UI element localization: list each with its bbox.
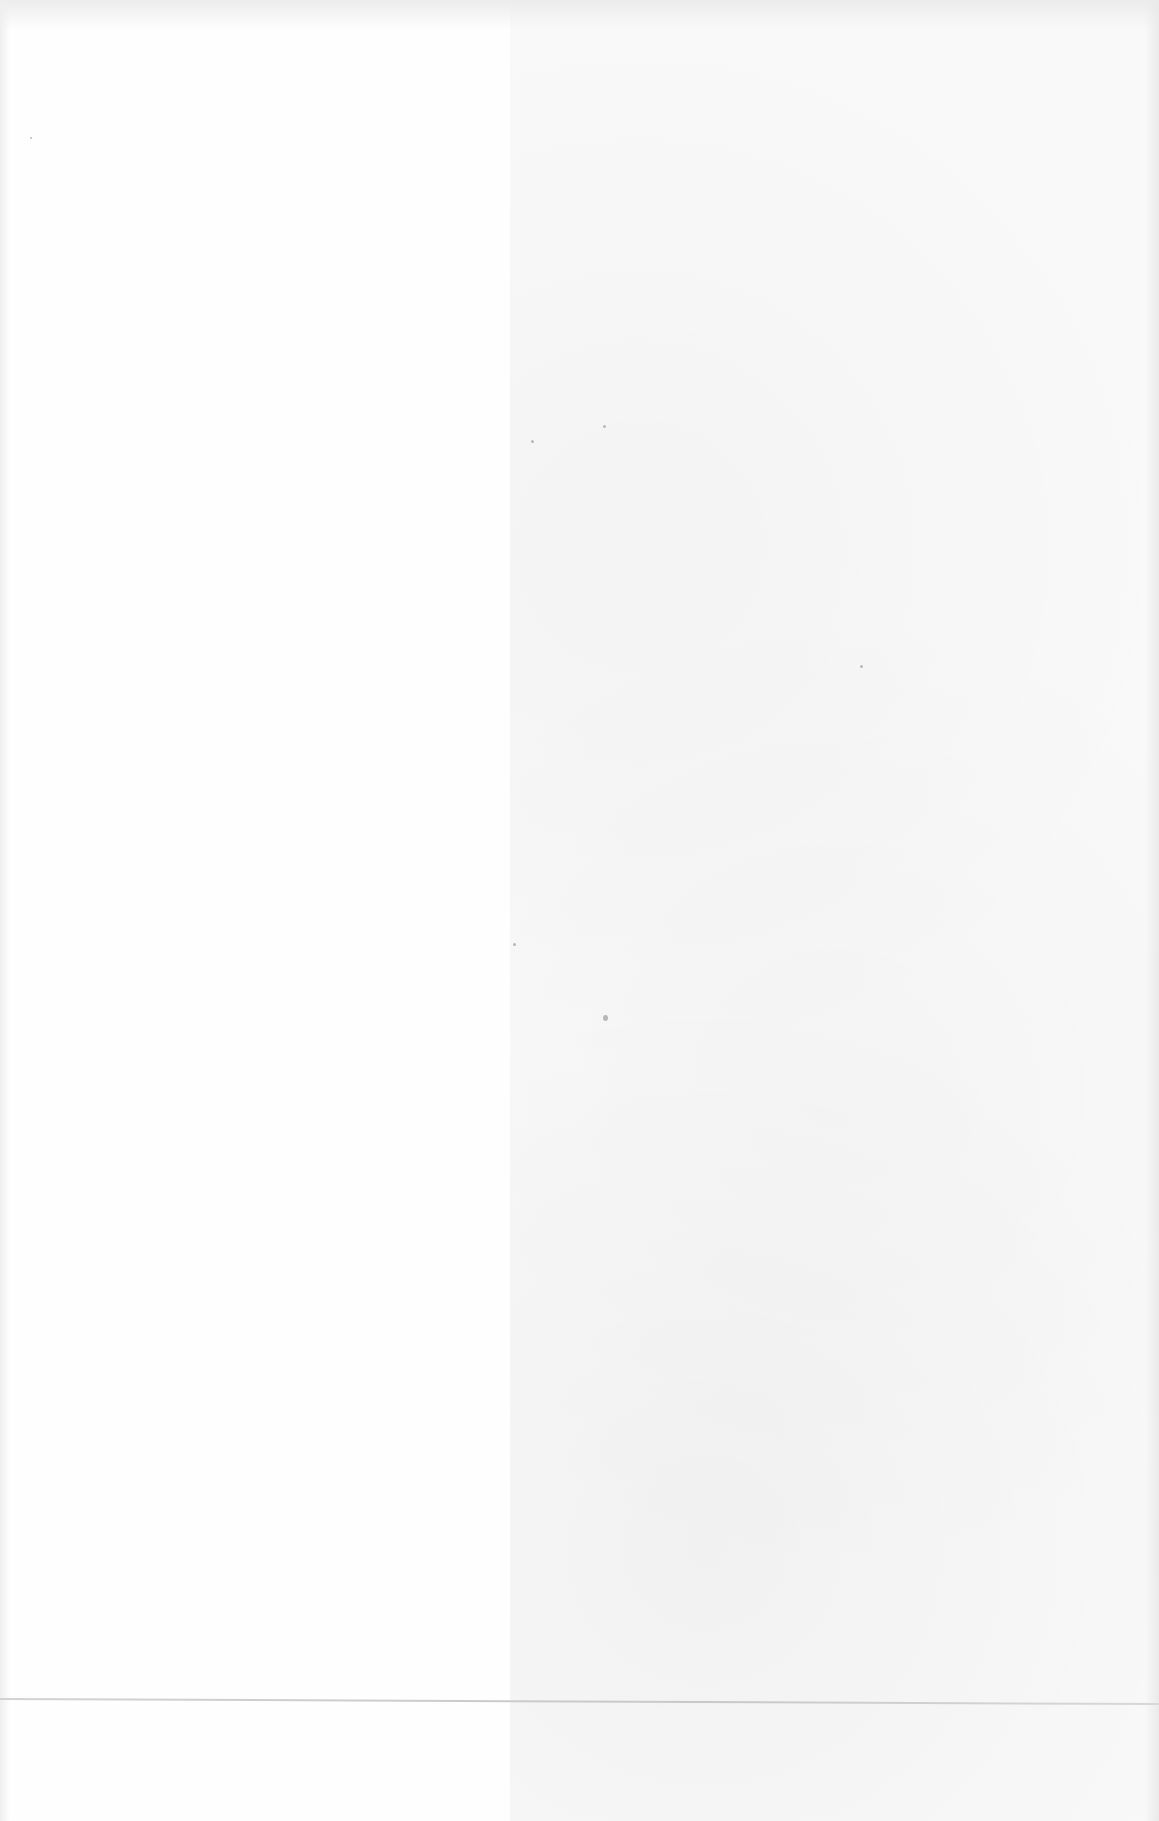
speck [860,665,863,668]
speck [30,137,32,139]
blank-scanned-page [0,0,1159,1821]
speck [531,440,534,443]
speck [513,943,516,946]
speck [603,425,606,428]
page-top-edge [0,0,1159,30]
page-shadow-region [510,0,1159,1821]
speck [603,1015,608,1021]
page-right-edge [1145,0,1159,1821]
page-left-edge [0,0,10,1821]
